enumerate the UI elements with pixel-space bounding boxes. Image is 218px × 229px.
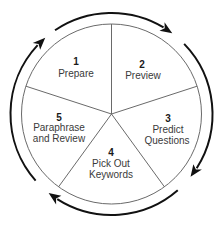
segment-3-label-line-1: Predict (152, 124, 183, 135)
cycle-diagram: 1 Prepare 2 Preview 3 Predict Questions … (0, 0, 218, 229)
segment-3-label-line-2: Questions (144, 135, 189, 146)
segment-4-label-line-2: Keywords (89, 169, 133, 180)
segment-5-label-line-2: and Review (33, 133, 86, 144)
segment-2-label: Preview (125, 70, 161, 81)
segment-1-label: Prepare (58, 68, 94, 79)
arrowhead-icon (191, 164, 202, 177)
segment-5-label-line-1: Paraphrase (33, 122, 85, 133)
segment-4-number: 4 (108, 147, 114, 158)
segment-3-number: 3 (165, 113, 171, 124)
segment-2-number: 2 (139, 59, 145, 70)
segment-1-number: 1 (73, 56, 79, 67)
arrowhead-icon (49, 193, 62, 204)
segment-4-label-line-1: Pick Out (92, 158, 130, 169)
arrowhead-icon (160, 22, 173, 33)
